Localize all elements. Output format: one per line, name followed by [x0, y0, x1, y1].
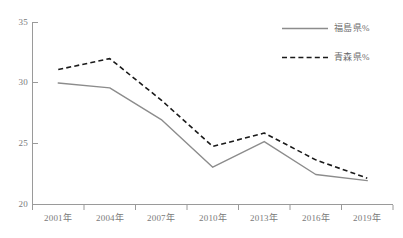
- x-axis-label-2007: 2007年: [135, 213, 187, 224]
- x-axis-label-2004: 2004年: [84, 213, 136, 224]
- y-axis-label-30: 30: [6, 77, 28, 87]
- x-axis-label-2010: 2010年: [187, 213, 239, 224]
- plot-area: [0, 0, 403, 238]
- legend-label-fukushima: 福島県%: [334, 23, 370, 34]
- legend-label-aomori: 青森県%: [334, 52, 370, 63]
- line-chart: 35 30 25 20 2001年 2004年 2007年 2010年 2013…: [0, 0, 403, 238]
- x-axis-label-2001: 2001年: [32, 213, 84, 224]
- y-axis-label-35: 35: [6, 17, 28, 27]
- y-axis-label-25: 25: [6, 138, 28, 148]
- y-axis-label-20: 20: [6, 199, 28, 209]
- x-axis-label-2013: 2013年: [238, 213, 290, 224]
- x-axis-label-2019: 2019年: [341, 213, 393, 224]
- x-axis-label-2016: 2016年: [290, 213, 342, 224]
- series-line-fukushima: [58, 83, 367, 181]
- series-line-aomori: [58, 59, 367, 179]
